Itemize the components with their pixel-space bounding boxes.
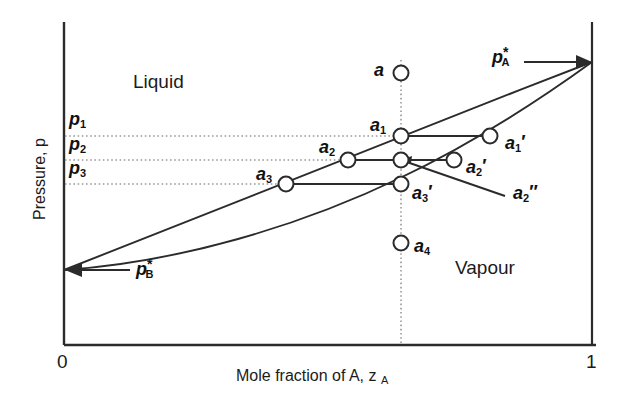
pressure-tick-p3-sub: 3 <box>80 167 86 179</box>
pressure-tick-p1-base: p <box>69 109 80 129</box>
y-axis-title: Pressure, p <box>31 109 49 249</box>
data-point-a3-prime[interactable] <box>394 177 409 192</box>
pressure-tick-p3: p3 <box>69 159 86 179</box>
data-point-a1[interactable] <box>394 129 409 144</box>
x-axis-title: Mole fraction of A, z A <box>236 368 388 386</box>
region-label-liquid: Liquid <box>133 72 184 91</box>
point-label-a3-prime: a3′ <box>412 183 432 204</box>
data-point-a2[interactable] <box>341 153 356 168</box>
point-label-a1-prime: a1′ <box>505 133 525 154</box>
point-a2-base: a <box>319 137 329 157</box>
point-a1-base: a <box>370 115 380 135</box>
x-axis-title-text: Mole fraction of A, z <box>236 367 377 384</box>
pressure-tick-p1: p1 <box>69 110 86 130</box>
liquid-line-curve <box>64 62 592 270</box>
point-a1-sub: 1 <box>380 124 386 136</box>
label-pA-star: p*A <box>492 45 509 68</box>
x-axis-title-sub: A <box>381 374 388 386</box>
x-tick-one: 1 <box>586 352 597 371</box>
pressure-tick-p2: p2 <box>69 135 86 155</box>
point-a2p-base: a <box>466 157 476 177</box>
point-a4-base: a <box>414 236 424 256</box>
point-a-base: a <box>374 60 384 80</box>
data-point-a[interactable] <box>394 66 409 81</box>
data-point-a2-prime[interactable] <box>447 153 462 168</box>
pressure-tick-p3-base: p <box>69 158 80 178</box>
point-a3-sub: 3 <box>266 173 272 185</box>
point-a3p-base: a <box>412 183 422 203</box>
pressure-tick-p2-sub: 2 <box>80 143 86 155</box>
data-point-a1-prime[interactable] <box>483 129 498 144</box>
point-label-a4: a4 <box>414 237 430 257</box>
label-pB-star: p*B <box>136 257 153 280</box>
point-a3-base: a <box>256 164 266 184</box>
pB-sub: B <box>145 268 153 280</box>
point-label-a1: a1 <box>370 116 386 136</box>
point-label-a3: a3 <box>256 165 272 185</box>
point-label-a2: a2 <box>319 138 335 158</box>
pressure-tick-p1-sub: 1 <box>80 118 86 130</box>
data-point-a3[interactable] <box>279 177 294 192</box>
point-a2pp-base: a <box>513 183 523 203</box>
y-axis-title-text: Pressure, p <box>31 138 48 220</box>
point-a1p-base: a <box>505 133 515 153</box>
point-a4-sub: 4 <box>424 245 430 257</box>
region-label-vapour: Vapour <box>455 258 515 277</box>
point-a2pp-prime: ″ <box>529 182 538 202</box>
x-tick-zero: 0 <box>57 352 68 371</box>
point-label-a2-prime: a2′ <box>466 157 486 178</box>
point-a3p-prime: ′ <box>428 182 432 202</box>
data-point-a2-centre[interactable] <box>394 153 409 168</box>
pressure-tick-p2-base: p <box>69 134 80 154</box>
point-a2p-prime: ′ <box>482 156 486 176</box>
pB-arrow-head <box>65 263 82 277</box>
point-label-a2-double-prime: a2″ <box>513 183 538 204</box>
point-a2-sub: 2 <box>329 146 335 158</box>
point-label-a: a <box>374 61 384 79</box>
data-point-a4[interactable] <box>394 236 409 251</box>
point-a1p-prime: ′ <box>521 132 525 152</box>
phase-diagram-figure: Liquid Vapour p1 p2 p3 p*A p*B a a1 a1′ … <box>0 0 620 404</box>
pA-sub: A <box>501 56 509 68</box>
